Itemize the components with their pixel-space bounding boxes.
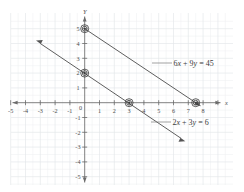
y-tick-label: 5 [76, 25, 79, 32]
y-tick-label: -1 [75, 114, 80, 121]
coordinate-plane-chart: -5 -4 -3 -2 -1 0 1 2 3 4 5 6 7 8 5 4 3 2… [0, 0, 244, 192]
eq2-constant: = 6 [196, 118, 209, 127]
eq2-coefficient-y: + 3 [180, 118, 193, 127]
y-tick-label: -2 [75, 129, 80, 136]
x-tick-label: 2 [113, 107, 116, 114]
equation-label-line1: 6x + 9y = 45 [174, 59, 214, 68]
x-tick-label: -1 [67, 107, 72, 114]
y-tick-label: -3 [75, 143, 80, 150]
y-tick-label: 1 [76, 84, 79, 91]
equation-label-line2: 2x + 3y = 6 [173, 118, 209, 127]
x-tick-label: 1 [98, 107, 101, 114]
x-axis-label: x [224, 99, 228, 106]
origin-label: 0 [79, 104, 82, 111]
x-tick-label: 7 [187, 107, 190, 114]
x-tick-label: 5 [157, 107, 160, 114]
eq1-coefficient-y: + 9 [181, 59, 194, 68]
x-tick-label: 8 [202, 107, 205, 114]
x-tick-label: 3 [128, 107, 131, 114]
x-tick-label: -4 [23, 107, 28, 114]
eq1-constant: = 45 [197, 59, 214, 68]
x-tick-label: -2 [53, 107, 58, 114]
y-tick-label: -4 [75, 158, 80, 165]
y-tick-label: 3 [76, 55, 79, 62]
x-tick-label: -5 [8, 107, 13, 114]
y-tick-label: 2 [76, 69, 79, 76]
y-tick-label: 4 [76, 40, 79, 47]
x-tick-label: -3 [38, 107, 43, 114]
y-tick-label: -5 [75, 173, 80, 180]
x-tick-label: 6 [172, 107, 175, 114]
graph-figure: -5 -4 -3 -2 -1 0 1 2 3 4 5 6 7 8 5 4 3 2… [0, 0, 244, 192]
